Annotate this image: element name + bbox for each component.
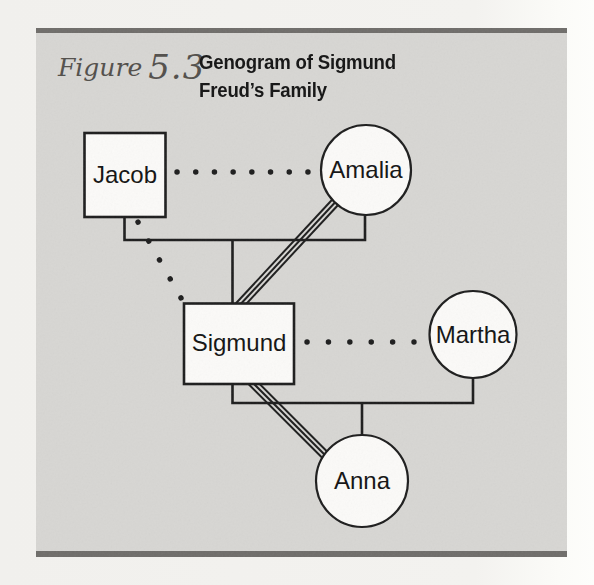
- genogram-diagram: Jacob Amalia Sigmund Martha Anna: [0, 0, 594, 585]
- book-figure-page: Figure5.3 Genogram of Sigmund Freud’s Fa…: [0, 0, 594, 585]
- paper-grain-overlay: [36, 28, 567, 557]
